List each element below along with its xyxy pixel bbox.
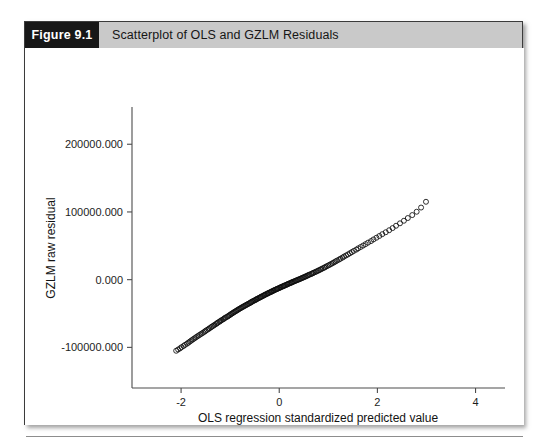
data-point xyxy=(414,209,419,214)
x-tick-label: 2 xyxy=(374,396,380,408)
scatterplot-svg: -100000.0000.000100000.000200000.000 -20… xyxy=(25,48,524,425)
y-axis-title: GZLM raw residual xyxy=(44,197,58,298)
data-point xyxy=(423,199,428,204)
data-point xyxy=(419,205,424,210)
figure-container: Figure 9.1 Scatterplot of OLS and GZLM R… xyxy=(24,21,523,425)
figure-header: Figure 9.1 Scatterplot of OLS and GZLM R… xyxy=(25,22,522,48)
y-tick-label: 0.000 xyxy=(95,274,123,286)
y-tick-label: 200000.000 xyxy=(65,138,123,150)
data-point xyxy=(405,216,410,221)
x-tick-label: 4 xyxy=(472,396,478,408)
y-tick-label: 100000.000 xyxy=(65,206,123,218)
y-tick-label: -100000.000 xyxy=(61,341,123,353)
figure-caption-text: Scatterplot of OLS and GZLM Residuals xyxy=(99,22,522,48)
x-axis-ticks: -2024 xyxy=(176,388,478,408)
data-point xyxy=(410,213,415,218)
y-axis-ticks: -100000.0000.000100000.000200000.000 xyxy=(61,138,132,353)
x-tick-label: -2 xyxy=(176,396,186,408)
x-tick-label: 0 xyxy=(276,396,282,408)
x-axis-title: OLS regression standardized predicted va… xyxy=(198,411,438,425)
scatterplot-area: -100000.0000.000100000.000200000.000 -20… xyxy=(25,48,524,425)
page-divider-rule xyxy=(26,436,523,437)
data-point-group xyxy=(174,199,429,353)
figure-number-label: Figure 9.1 xyxy=(25,22,99,48)
